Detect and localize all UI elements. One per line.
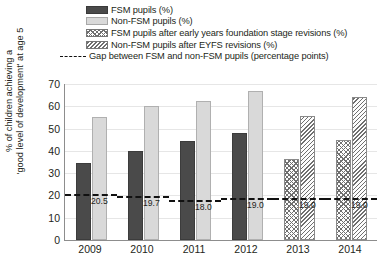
legend-item-non-fsm-revised: Non-FSM pupils after EYFS revisions (%) xyxy=(86,39,277,51)
bar-solid-light-2009 xyxy=(92,117,107,240)
y-axis-title: % of children achieving a 'good level of… xyxy=(0,23,32,179)
bar-group-2011 xyxy=(169,84,221,240)
y-axis-tick-label: 20 xyxy=(48,190,60,200)
legend-label-non-fsm-revised: Non-FSM pupils after EYFS revisions (%) xyxy=(111,40,277,50)
bar-groups xyxy=(65,84,377,240)
legend-label-gap: Gap between FSM and non-FSM pupils (perc… xyxy=(89,51,329,61)
x-axis-labels: 200920102011201220132014 xyxy=(64,243,376,255)
x-axis-label-2014: 2014 xyxy=(324,243,376,255)
legend-swatch-fsm-solid-dark xyxy=(86,6,108,14)
legend-label-fsm: FSM pupils (%) xyxy=(111,5,173,15)
gap-value-label-2013: 19.0 xyxy=(299,201,316,210)
plot-area: 010203040506070 20.519.718.019.019.019.0 xyxy=(64,84,377,241)
legend-swatch-fsm-crosshatch xyxy=(86,29,108,37)
bar-group-2013 xyxy=(273,84,325,240)
legend-item-gap: Gap between FSM and non-FSM pupils (perc… xyxy=(60,50,329,62)
y-axis-tick-label: 10 xyxy=(48,213,60,223)
bar-group-2010 xyxy=(117,84,169,240)
bar-solid-light-2012 xyxy=(248,91,263,240)
bar-group-2012 xyxy=(221,84,273,240)
bar-crosshatch-2014 xyxy=(336,140,351,240)
x-axis-label-2011: 2011 xyxy=(168,243,220,255)
gap-value-label-2010: 19.7 xyxy=(143,199,160,208)
bar-solid-light-2010 xyxy=(144,106,159,240)
x-axis-label-2013: 2013 xyxy=(272,243,324,255)
x-axis-label-2010: 2010 xyxy=(116,243,168,255)
y-axis-tick-label: 0 xyxy=(54,235,60,245)
legend-item-fsm-revised: FSM pupils after early years foundation … xyxy=(86,27,347,39)
legend-swatch-non-fsm-solid-light xyxy=(86,17,108,25)
y-axis-title-line2: 'good level of development' at age 5 xyxy=(15,28,26,175)
chart-legend: FSM pupils (%) Non-FSM pupils (%) FSM pu… xyxy=(0,4,390,62)
gap-value-label-2009: 20.5 xyxy=(91,197,108,206)
legend-item-non-fsm: Non-FSM pupils (%) xyxy=(86,16,193,28)
bar-group-2009 xyxy=(65,84,117,240)
gap-value-label-2012: 19.0 xyxy=(247,201,264,210)
bar-solid-dark-2012 xyxy=(232,133,247,240)
bar-solid-light-2011 xyxy=(196,101,211,240)
legend-label-non-fsm: Non-FSM pupils (%) xyxy=(111,16,193,26)
gap-value-label-2011: 18.0 xyxy=(195,203,212,212)
y-axis-tick-label: 70 xyxy=(48,79,60,89)
bar-diagonal-hatch-2013 xyxy=(300,116,315,240)
bar-group-2014 xyxy=(325,84,377,240)
legend-label-fsm-revised: FSM pupils after early years foundation … xyxy=(111,28,347,38)
legend-swatch-non-fsm-diagonal-hatch xyxy=(86,41,108,49)
x-axis-label-2009: 2009 xyxy=(64,243,116,255)
y-axis-tick-label: 30 xyxy=(48,168,60,178)
y-axis-tick-label: 50 xyxy=(48,124,60,134)
y-axis-tick-label: 40 xyxy=(48,146,60,156)
legend-item-fsm: FSM pupils (%) xyxy=(86,4,173,16)
bar-solid-dark-2011 xyxy=(180,141,195,240)
y-axis-title-line1: % of children achieving a xyxy=(4,28,15,175)
y-axis-tick-label: 60 xyxy=(48,101,60,111)
legend-swatch-gap-dashed-line xyxy=(60,56,86,57)
bar-diagonal-hatch-2014 xyxy=(352,97,367,240)
gap-value-label-2014: 19.0 xyxy=(351,201,368,210)
bar-solid-dark-2009 xyxy=(76,163,91,240)
x-axis-label-2012: 2012 xyxy=(220,243,272,255)
